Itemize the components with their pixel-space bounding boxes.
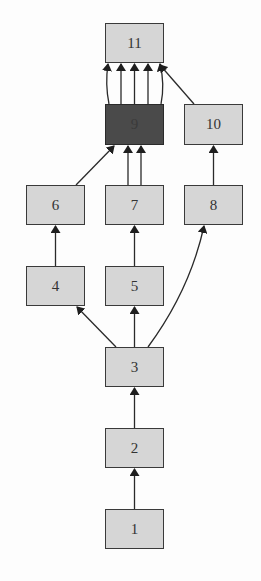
node-label: 11 xyxy=(127,35,141,52)
node-3: 3 xyxy=(105,347,164,387)
diagram-canvas: 11 9 10 6 7 8 4 5 3 2 1 xyxy=(0,0,261,581)
node-label: 8 xyxy=(210,197,218,214)
node-11: 11 xyxy=(105,23,164,63)
node-label: 10 xyxy=(206,116,221,133)
node-label: 1 xyxy=(131,521,139,538)
node-1: 1 xyxy=(105,509,164,549)
node-label: 4 xyxy=(52,278,60,295)
node-label: 3 xyxy=(131,359,139,376)
node-10: 10 xyxy=(184,104,243,145)
edge-3-4 xyxy=(77,307,116,347)
node-9-highlighted: 9 xyxy=(105,104,164,145)
node-5: 5 xyxy=(105,266,164,306)
node-label: 9 xyxy=(131,116,139,133)
node-label: 6 xyxy=(52,197,60,214)
edge-6-9 xyxy=(76,146,114,185)
node-2: 2 xyxy=(105,428,164,468)
node-label: 7 xyxy=(131,197,139,214)
edge-9-11-a xyxy=(107,64,109,104)
node-7: 7 xyxy=(105,185,164,225)
node-8: 8 xyxy=(184,185,243,225)
node-4: 4 xyxy=(26,266,85,306)
edge-10-11 xyxy=(160,65,194,104)
node-6: 6 xyxy=(26,185,85,225)
node-label: 2 xyxy=(131,440,139,457)
node-label: 5 xyxy=(131,278,139,295)
edge-9-11-e xyxy=(160,64,163,104)
